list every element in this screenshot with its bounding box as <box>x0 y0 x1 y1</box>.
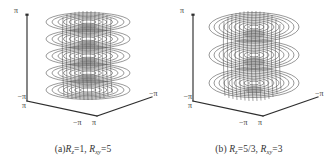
axis-tip-b <box>191 14 194 16</box>
axis-tick-y-origin-b: π <box>172 102 192 111</box>
contour-rings-a <box>46 11 130 100</box>
figure-panel-a: π −π π −π π −π (a)Rz=1, Rxy=5 <box>0 0 166 161</box>
contour-core-b <box>243 30 265 94</box>
panel-b-param1-value: 5/3 <box>243 144 255 154</box>
panel-a-param1-subscript: z <box>71 148 74 155</box>
axis-tick-z-top-a: π <box>14 7 18 15</box>
panel-caption-a: (a)Rz=1, Rxy=5 <box>0 144 166 155</box>
panel-b-param1-subscript: z <box>235 148 238 155</box>
panel-caption-b-prefix: (b) <box>215 144 226 154</box>
panel-caption-b: (b) Rz=5/3, Rxy=3 <box>166 144 332 155</box>
axis-tick-x-right-a: π <box>92 119 96 127</box>
axis-tick-y-far-b: −π <box>315 90 324 98</box>
panel-caption-a-prefix: (a) <box>55 144 66 154</box>
panel-a-param2-subscript: xy <box>95 148 101 155</box>
axis-tick-y-far-a: −π <box>149 90 158 98</box>
figure-container: π −π π −π π −π (a)Rz=1, Rxy=5 <box>0 0 332 161</box>
panel-b-param2-value: 3 <box>278 144 283 154</box>
panel-b-param2-subscript: xy <box>266 148 272 155</box>
axis-tip-a <box>25 14 28 16</box>
contour-plot-a <box>0 0 166 133</box>
axis-tick-origin-b: −π π <box>172 93 192 110</box>
plot-area-a: π −π π −π π −π <box>0 0 166 133</box>
figure-panel-b: π −π π −π π −π (b) Rz=5/3, Rxy=3 <box>166 0 332 161</box>
axis-tick-x-left-b: −π <box>239 119 248 127</box>
axis-tick-origin-a: −π π <box>6 93 26 110</box>
axis-tick-x-left-a: −π <box>73 119 82 127</box>
axis-tick-z-top-b: π <box>180 7 184 15</box>
axis-tick-x-right-b: π <box>258 119 262 127</box>
axis-tick-y-origin-a: π <box>6 102 26 111</box>
panel-a-param2-value: 5 <box>107 144 112 154</box>
contour-rings-b <box>209 11 299 101</box>
plot-area-b: π −π π −π π −π <box>166 0 332 133</box>
panel-a-param1-value: 1 <box>79 144 84 154</box>
contour-plot-b <box>166 0 332 133</box>
